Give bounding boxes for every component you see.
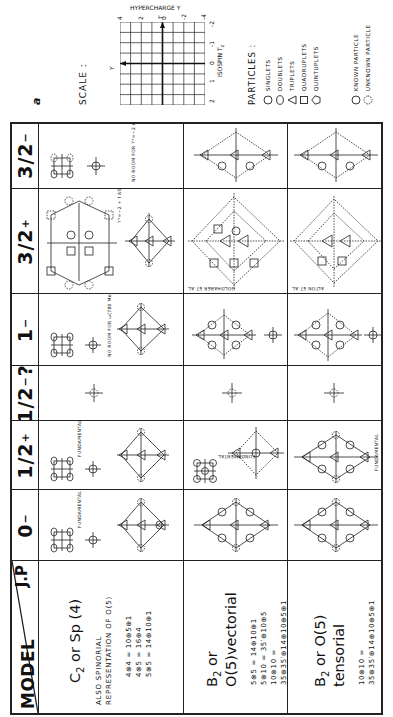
y-tick: 0 bbox=[160, 16, 167, 20]
col-header-half-minus: 1/2− ? bbox=[12, 366, 38, 421]
y-tick: -2 bbox=[180, 14, 187, 20]
col-header-half-plus: 1/2+ bbox=[12, 421, 38, 490]
figure-label: a bbox=[30, 98, 43, 105]
diagram-b2v-0-minus bbox=[184, 490, 287, 560]
model-cell-c2-sp4: C2 or Sp (4) ALSO SPINORIAL REPRESENTATI… bbox=[39, 561, 183, 713]
model-reps: 5⊗5 = 14⊕10⊕1 5⊗10 = 35′⊕10⊕5 10⊗10 = 35… bbox=[249, 569, 289, 685]
cell-note: GOLDHABER ET AL bbox=[188, 286, 235, 291]
y-tick: 2 bbox=[137, 16, 144, 20]
diagram-b2t-0-minus bbox=[288, 490, 383, 560]
weight-diagram bbox=[288, 294, 383, 365]
dashed-circle-icon bbox=[363, 95, 373, 105]
cell-note: FUNDAMENTAL bbox=[218, 454, 255, 459]
legend-item-unknown: UNKNOWN PARTICLE bbox=[363, 24, 373, 105]
diagram-c2-3half-minus: NO ROOM FOR Y*=−2 AS 5 ⊕ 10 ⊕ 5 bbox=[39, 122, 183, 188]
weight-diagram bbox=[39, 122, 183, 188]
y-tick: -4 bbox=[200, 14, 207, 20]
diagram-b2t-1-minus bbox=[288, 294, 383, 365]
legend-item-doublets: DOUBLETS bbox=[275, 56, 285, 105]
model-reps: 10⊗10 = 35⊕35′⊕14⊕10⊕5⊕1 bbox=[357, 569, 377, 685]
model-title: B2 or O(5) tensorial bbox=[312, 569, 347, 687]
diagram-c2-half-minus bbox=[39, 366, 183, 420]
model-jp-header: MODEL J.P bbox=[12, 561, 38, 713]
y-tick: 4 bbox=[116, 16, 123, 20]
diagram-b2v-3half-plus: GOLDHABER ET AL bbox=[184, 189, 287, 293]
diagram-b2v-3half-minus bbox=[184, 122, 287, 188]
model-cell-b2-tensorial: B2 or O(5) tensorial 10⊗10 = 35⊕35′⊕14⊕1… bbox=[288, 561, 383, 713]
diagram-b2v-half-minus bbox=[184, 366, 287, 420]
y-axis-title: HYPERCHARGE Y bbox=[130, 4, 180, 11]
diagram-b2t-3half-plus: ALTON ET AL bbox=[288, 189, 383, 293]
weight-diagram bbox=[288, 421, 383, 489]
legend-item-quadruplets: QUADRUPLETS bbox=[299, 43, 309, 105]
col-header-1-minus: 1− bbox=[12, 294, 38, 366]
x-tick: -2 bbox=[208, 21, 215, 27]
square-icon bbox=[299, 95, 309, 105]
model-title: C2 or Sp (4) bbox=[67, 569, 86, 683]
scale-label: SCALE : bbox=[78, 63, 88, 105]
model-reps: 4⊗4 = 10⊕5⊕1 4⊗5 = 16⊕4 5⊗5 = 14⊕10⊕1 bbox=[124, 569, 154, 677]
jp-label: J.P bbox=[13, 565, 31, 587]
cell-note: NO ROOM FOR Y*=−2 AS 5 ⊕ 10 ⊕ 5 bbox=[131, 122, 136, 182]
axis-marker-y: Y bbox=[108, 66, 115, 70]
col-header-3half-plus: 3/2+ bbox=[12, 189, 38, 294]
model-label: MODEL bbox=[18, 639, 38, 709]
weight-diagram bbox=[184, 366, 287, 420]
cell-note: Y*=−2 + f AS 5 ⊕ 10 ⊕ 5 bbox=[117, 189, 122, 223]
circle-icon bbox=[263, 95, 273, 105]
x-tick: -1 bbox=[208, 41, 215, 47]
diagram-b2v-half-plus: FUNDAMENTAL bbox=[184, 421, 287, 489]
diagram-b2t-half-plus: FUNDAMENTAL bbox=[288, 421, 383, 489]
diagram-c2-0-minus: FUNDAMENTAL bbox=[39, 490, 183, 560]
cell-note: ALTON ET AL bbox=[292, 286, 324, 291]
weight-diagram bbox=[288, 122, 383, 188]
weight-diagram bbox=[184, 189, 287, 293]
cell-note: FUNDAMENTAL bbox=[374, 434, 379, 471]
weight-diagram bbox=[288, 490, 383, 560]
particle-legend: PARTICLES : SINGLETS DOUBLETS TRIPLETS Q… bbox=[245, 5, 385, 105]
diagram-c2-half-plus: FUNDAMENTAL bbox=[39, 421, 183, 489]
col-header-3half-minus: 3/2− bbox=[12, 122, 38, 189]
diagram-b2t-half-minus bbox=[288, 366, 383, 420]
diagram-c2-3half-plus: Y*=−2 + f AS 5 ⊕ 10 ⊕ 5 bbox=[39, 189, 183, 293]
weight-diagram bbox=[184, 122, 287, 188]
cell-note: FUNDAMENTAL bbox=[77, 421, 82, 457]
triangle-icon bbox=[287, 95, 297, 105]
diagram-b2v-1-minus bbox=[184, 294, 287, 365]
col-header-0-minus: 0− bbox=[12, 490, 38, 561]
weight-diagram bbox=[39, 421, 183, 489]
oval-icon bbox=[275, 95, 285, 105]
rotated-figure-page: a MODEL J.P 0− 1/2+ 1/2− ? bbox=[0, 0, 393, 717]
legend-item-known: KNOWN PARTICLE bbox=[351, 34, 361, 105]
model-cell-b2-vectorial: B2 or O(5)vectorial 5⊗5 = 14⊕10⊕1 5⊗10 =… bbox=[184, 561, 287, 713]
legend-item-singlets: SINGLETS bbox=[263, 59, 273, 105]
x-axis-title: ISOSPIN Tz bbox=[216, 45, 225, 77]
weight-diagram bbox=[184, 294, 287, 365]
multiplet-table: MODEL J.P 0− 1/2+ 1/2− ? 1− 3/2+ 3/2− C2… bbox=[10, 122, 383, 715]
x-tick: 2 bbox=[208, 99, 215, 103]
scale-grid bbox=[120, 22, 205, 105]
weight-diagram bbox=[184, 490, 287, 560]
weight-diagram bbox=[288, 366, 383, 420]
weight-diagram bbox=[39, 366, 183, 420]
legend-item-quintuplets: QUINTUPLETS bbox=[311, 46, 321, 105]
weight-diagram bbox=[39, 189, 183, 293]
cell-note: NO ROOM FOR ω(780 MeV) · ω φ AS A 5D 10 … bbox=[107, 294, 112, 357]
legend-item-triplets: TRIPLETS bbox=[287, 61, 297, 105]
model-title: B2 or O(5)vectorial bbox=[204, 569, 239, 687]
diagram-b2t-3half-minus bbox=[288, 122, 383, 188]
weight-diagram bbox=[288, 189, 383, 293]
scale-grid-lines bbox=[120, 22, 205, 105]
x-tick: 1 bbox=[208, 79, 215, 83]
solid-circle-icon bbox=[351, 95, 361, 105]
pentagon-icon bbox=[311, 95, 321, 105]
legend-title: PARTICLES : bbox=[247, 44, 257, 105]
cell-note: FUNDAMENTAL bbox=[77, 491, 82, 528]
x-tick: 0 bbox=[208, 61, 215, 65]
weight-diagram bbox=[39, 490, 183, 560]
diagram-c2-1-minus: NO ROOM FOR ω(780 MeV) · ω φ AS A 5D 10 … bbox=[39, 294, 183, 365]
model-note: ALSO SPINORIAL REPRESENTATION OF O(5) bbox=[94, 569, 114, 705]
